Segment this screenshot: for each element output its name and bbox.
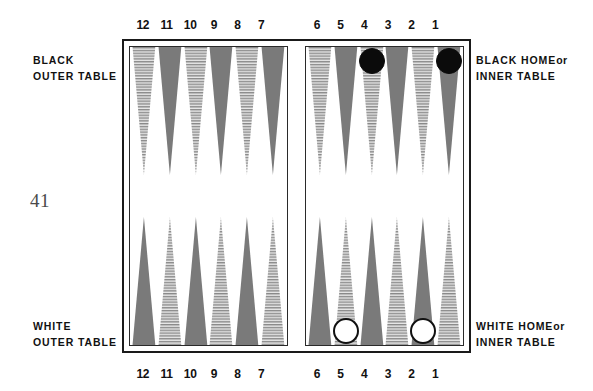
point-triangle [183,47,209,175]
point-number: 12 [131,18,155,32]
point-number: 11 [155,367,179,381]
caption-black-home-line2: INNER TABLE [476,68,568,84]
caption-white-outer-line2: OUTER TABLE [33,334,117,350]
board-point-1[interactable] [436,47,462,175]
backgammon-board [122,39,471,353]
point-number: 2 [400,367,424,381]
board-point-5[interactable] [333,47,359,175]
point-triangle [131,47,157,175]
point-number: 2 [400,18,424,32]
board-point-11[interactable] [157,217,183,345]
board-point-12[interactable] [131,47,157,175]
board-point-9[interactable] [208,47,234,175]
caption-black-home-line1: BLACK HOMEor [476,52,568,68]
page-number: 41 [30,190,50,212]
point-number: 7 [249,367,273,381]
caption-white-outer-line1: WHITE [33,318,117,334]
quadrant-black-outer-table [131,47,286,175]
board-right-half [305,46,464,346]
black-checker[interactable] [436,48,462,74]
point-triangle [333,47,359,175]
board-point-8[interactable] [234,217,260,345]
caption-white-home-line1: WHITE HOMEor [476,318,565,334]
board-point-4[interactable] [359,47,385,175]
point-triangle [208,217,234,345]
point-triangle [359,217,385,345]
board-point-10[interactable] [183,217,209,345]
caption-black-home-table: BLACK HOMEor INNER TABLE [476,52,568,84]
board-point-10[interactable] [183,47,209,175]
point-triangle [384,217,410,345]
caption-white-home-suffix: or [553,320,565,332]
board-point-9[interactable] [208,217,234,345]
point-triangle [234,47,260,175]
point-number: 1 [423,18,447,32]
point-numbers-top-right: 654321 [305,17,447,33]
board-point-6[interactable] [307,217,333,345]
point-numbers-top-left: 121110987 [131,17,273,33]
point-number: 9 [202,367,226,381]
quadrant-white-outer-table [131,217,286,345]
point-triangle [410,47,436,175]
point-triangle [260,47,286,175]
caption-black-outer-table: BLACK OUTER TABLE [33,52,117,84]
point-number: 6 [305,367,329,381]
board-point-3[interactable] [384,217,410,345]
board-point-7[interactable] [260,217,286,345]
point-number: 7 [249,18,273,32]
caption-black-home-suffix: or [556,54,568,66]
caption-black-outer-line1: BLACK [33,52,117,68]
quadrant-white-home-table [307,217,462,345]
point-number: 5 [329,367,353,381]
board-left-half [129,46,288,346]
point-number: 5 [329,18,353,32]
point-numbers-bottom-left: 121110987 [131,366,273,382]
point-number: 11 [155,18,179,32]
caption-white-home-line2: INNER TABLE [476,334,565,350]
board-point-7[interactable] [260,47,286,175]
point-triangle [307,217,333,345]
point-triangle [436,217,462,345]
point-number: 4 [352,18,376,32]
point-number: 8 [226,367,250,381]
point-number: 6 [305,18,329,32]
caption-white-home-main: WHITE HOME [476,320,553,332]
point-number: 3 [376,367,400,381]
point-number: 4 [352,367,376,381]
point-triangle [260,217,286,345]
board-point-5[interactable] [333,217,359,345]
board-point-12[interactable] [131,217,157,345]
point-triangle [183,217,209,345]
white-checker[interactable] [410,318,436,344]
quadrant-black-home-table [307,47,462,175]
caption-black-home-main: BLACK HOME [476,54,556,66]
caption-black-outer-line2: OUTER TABLE [33,68,117,84]
board-point-1[interactable] [436,217,462,345]
board-point-2[interactable] [410,217,436,345]
point-number: 9 [202,18,226,32]
point-number: 3 [376,18,400,32]
point-triangle [131,217,157,345]
point-triangle [307,47,333,175]
point-triangle [208,47,234,175]
point-number: 10 [178,18,202,32]
board-point-4[interactable] [359,217,385,345]
board-point-11[interactable] [157,47,183,175]
point-triangle [234,217,260,345]
point-triangle [384,47,410,175]
caption-white-home-table: WHITE HOMEor INNER TABLE [476,318,565,350]
board-point-6[interactable] [307,47,333,175]
point-numbers-bottom-right: 654321 [305,366,447,382]
white-checker[interactable] [333,318,359,344]
point-number: 12 [131,367,155,381]
point-number: 10 [178,367,202,381]
black-checker[interactable] [359,48,385,74]
point-triangle [157,47,183,175]
board-point-3[interactable] [384,47,410,175]
point-number: 8 [226,18,250,32]
point-triangle [157,217,183,345]
caption-white-outer-table: WHITE OUTER TABLE [33,318,117,350]
board-point-2[interactable] [410,47,436,175]
board-point-8[interactable] [234,47,260,175]
point-number: 1 [423,367,447,381]
